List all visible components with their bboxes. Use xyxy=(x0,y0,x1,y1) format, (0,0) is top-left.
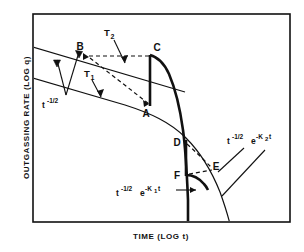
leader-k1-formula xyxy=(176,187,196,193)
svg-text:t: t xyxy=(42,100,45,110)
dashed-f-to-e xyxy=(189,170,212,174)
leader-t1 xyxy=(92,80,104,97)
formula-power-law: t -1/2 xyxy=(42,97,59,110)
x-axis-label: TIME (LOG t) xyxy=(96,232,226,241)
svg-text:-1/2: -1/2 xyxy=(121,185,133,192)
point-label-e: E xyxy=(213,161,220,172)
svg-text:t: t xyxy=(227,136,230,146)
svg-text:T: T xyxy=(84,68,90,79)
svg-text:T: T xyxy=(104,27,110,38)
plot-frame xyxy=(33,14,290,222)
point-label-f: F xyxy=(174,170,180,181)
leader-t2 xyxy=(114,40,128,63)
leader-k2-formula xyxy=(222,150,265,196)
point-label-d: D xyxy=(173,137,180,148)
point-label-a: A xyxy=(142,108,149,119)
point-label-c: C xyxy=(153,42,160,53)
svg-text:t: t xyxy=(116,188,119,198)
svg-text:-1/2: -1/2 xyxy=(232,133,244,140)
formula-decay-k1: t -1/2 e -K 1 t xyxy=(116,185,161,198)
temp-label-t2: T 2 xyxy=(104,27,115,40)
svg-text:-K: -K xyxy=(256,133,263,140)
temp-label-t1: T 1 xyxy=(84,68,95,81)
svg-text:-1/2: -1/2 xyxy=(47,97,59,104)
svg-text:t: t xyxy=(269,133,272,140)
svg-text:-K: -K xyxy=(145,185,152,192)
y-axis-label: OUTGASSING RATE (LOG q) xyxy=(22,38,31,198)
f-depletion-branch xyxy=(186,175,208,190)
svg-text:t: t xyxy=(158,185,161,192)
outgassing-rate-figure: OUTGASSING RATE (LOG q) TIME (LOG t) xyxy=(0,0,304,252)
dashed-d-to-e xyxy=(187,144,212,168)
leader-k2-to-e xyxy=(218,148,244,172)
t2-depletion-curve xyxy=(150,55,188,226)
formula-decay-k2: t -1/2 e -K 2 t xyxy=(227,133,272,146)
arrow-into-b xyxy=(83,53,89,60)
plot-canvas: A B C D E F T 2 T 1 t -1/2 t -1/2 e -K 1… xyxy=(0,0,304,252)
svg-text:2: 2 xyxy=(111,33,115,40)
point-label-b: B xyxy=(76,41,83,52)
svg-text:1: 1 xyxy=(91,74,95,81)
